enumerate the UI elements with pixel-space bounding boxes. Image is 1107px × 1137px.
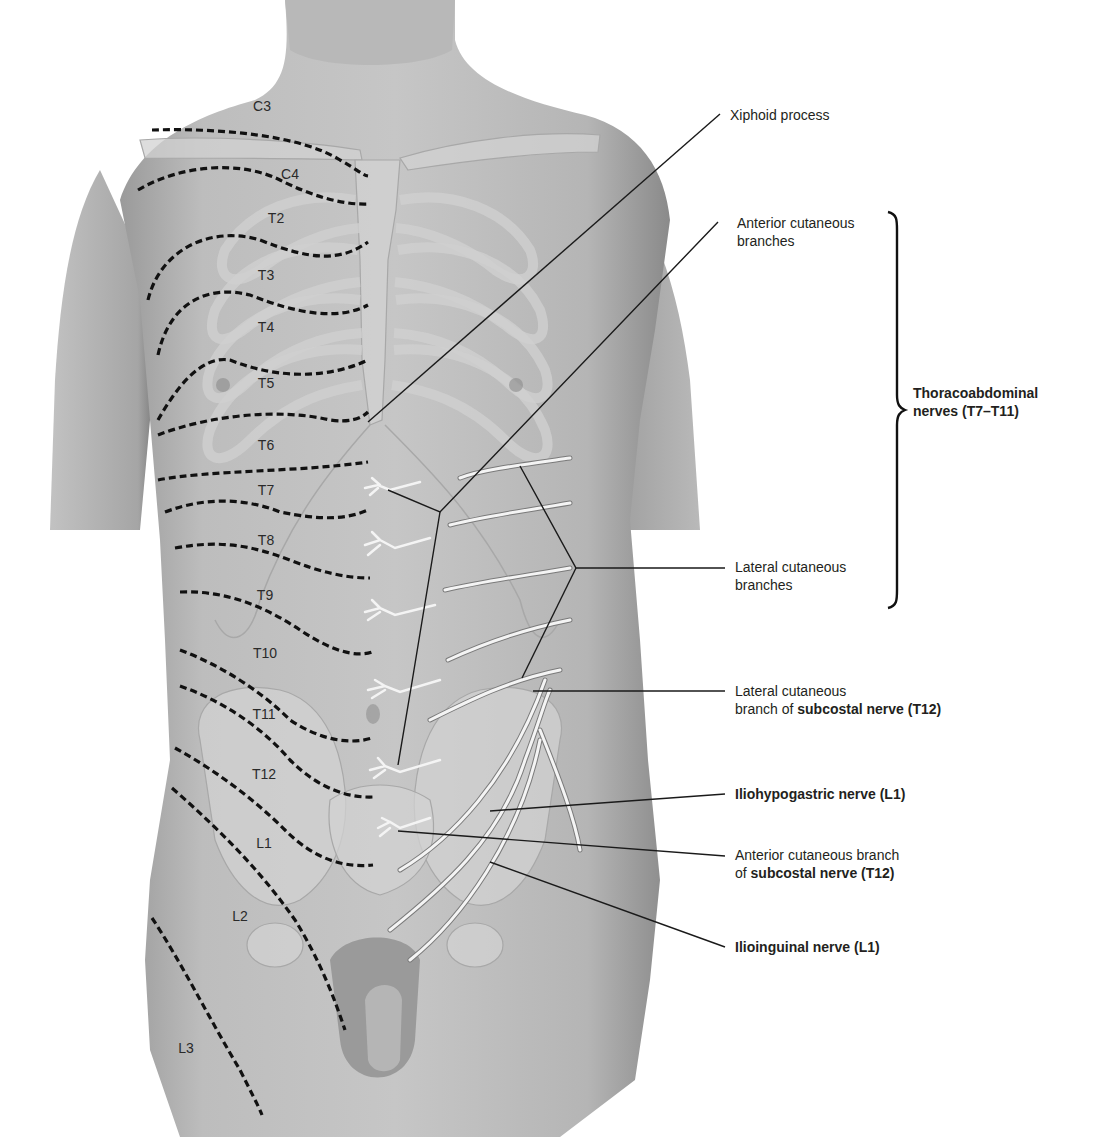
label-prefix: branch of xyxy=(735,701,797,717)
label-lateral-cutaneous-branches: Lateral cutaneous branches xyxy=(735,558,846,594)
label-line-1: Anterior cutaneous xyxy=(737,214,855,232)
dermatome-label-l1: L1 xyxy=(256,835,272,851)
label-anterior-cutaneous-branches: Anterior cutaneous branches xyxy=(737,214,855,250)
label-iliohypogastric-nerve: Iliohypogastric nerve (L1) xyxy=(735,785,905,803)
dermatome-label-t12: T12 xyxy=(252,766,276,782)
dermatome-label-c4: C4 xyxy=(281,166,299,182)
anatomy-figure xyxy=(0,0,1107,1137)
dermatome-label-c3: C3 xyxy=(253,98,271,114)
label-line-2: branch of subcostal nerve (T12) xyxy=(735,700,941,718)
thoracoabdominal-brace xyxy=(888,212,905,608)
dermatome-label-t3: T3 xyxy=(258,267,274,283)
dermatome-label-t4: T4 xyxy=(258,319,274,335)
dermatome-label-t5: T5 xyxy=(258,375,274,391)
label-line-2: branches xyxy=(737,232,855,250)
dermatome-label-t6: T6 xyxy=(258,437,274,453)
label-lateral-cutaneous-subcostal: Lateral cutaneous branch of subcostal ne… xyxy=(735,682,941,718)
dermatome-label-t9: T9 xyxy=(257,587,273,603)
label-bold: subcostal nerve (T12) xyxy=(751,865,895,881)
dermatome-label-l2: L2 xyxy=(232,908,248,924)
label-line-1: Lateral cutaneous xyxy=(735,558,846,576)
label-line-2: of subcostal nerve (T12) xyxy=(735,864,899,882)
dermatome-label-t11: T11 xyxy=(252,706,275,722)
label-text: Iliohypogastric nerve (L1) xyxy=(735,786,905,802)
dermatome-label-l3: L3 xyxy=(178,1040,194,1056)
dermatome-label-t7: T7 xyxy=(258,482,274,498)
dermatome-label-t10: T10 xyxy=(253,645,277,661)
label-prefix: of xyxy=(735,865,751,881)
dermatome-label-t2: T2 xyxy=(268,210,284,226)
label-thoracoabdominal-nerves: Thoracoabdominal nerves (T7–T11) xyxy=(913,384,1038,420)
label-bold: subcostal nerve (T12) xyxy=(797,701,941,717)
label-line-2: nerves (T7–T11) xyxy=(913,402,1038,420)
label-anterior-cutaneous-subcostal: Anterior cutaneous branch of subcostal n… xyxy=(735,846,899,882)
label-line-1: Lateral cutaneous xyxy=(735,682,941,700)
label-xiphoid-process: Xiphoid process xyxy=(730,106,830,124)
label-ilioinguinal-nerve: Ilioinguinal nerve (L1) xyxy=(735,938,880,956)
label-line-1: Anterior cutaneous branch xyxy=(735,846,899,864)
label-line-2: branches xyxy=(735,576,846,594)
label-line-1: Thoracoabdominal xyxy=(913,384,1038,402)
label-text: Ilioinguinal nerve (L1) xyxy=(735,939,880,955)
label-text: Xiphoid process xyxy=(730,107,830,123)
dermatome-label-t8: T8 xyxy=(258,532,274,548)
